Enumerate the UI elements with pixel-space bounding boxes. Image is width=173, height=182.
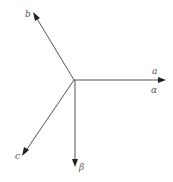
- arrowhead-a-alpha: [158, 77, 166, 83]
- label-b: b: [25, 9, 31, 19]
- vector-diagram: a α b c β: [0, 0, 173, 182]
- label-a: a: [152, 66, 157, 76]
- arrowhead-b: [33, 12, 40, 21]
- arrowhead-beta: [72, 159, 78, 167]
- axis-b: [36, 17, 74, 80]
- label-c: c: [15, 151, 20, 161]
- label-beta: β: [78, 162, 84, 172]
- axis-c: [25, 80, 74, 152]
- label-alpha: α: [151, 85, 157, 95]
